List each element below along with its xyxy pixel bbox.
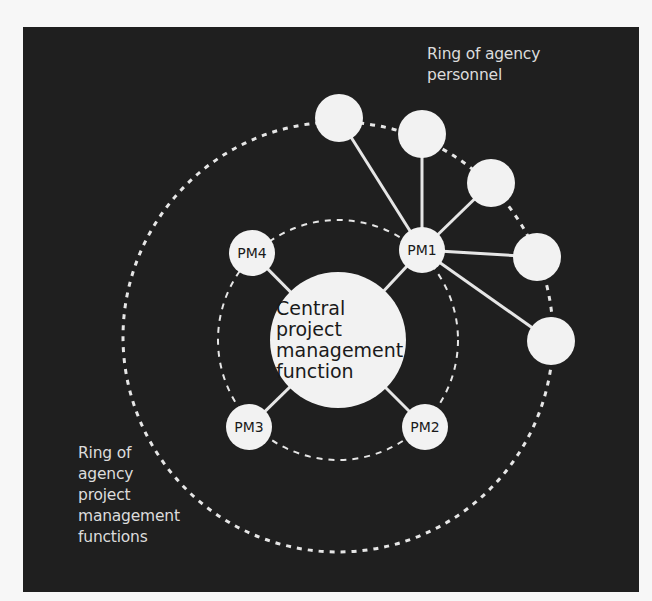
center-label-line: function [276,360,354,382]
pm-node-label: PM4 [237,245,267,261]
label-line: Ring of [78,443,180,464]
personnel-node-4 [513,233,561,281]
pm-node-pm1: PM1 [399,227,445,273]
pm-node-pm2: PM2 [402,404,448,450]
label-line: management [78,506,180,527]
pm-node-label: PM3 [234,419,263,435]
label-ring-of-agency-personnel: Ring of agency personnel [427,44,540,86]
center-label-line: management [276,339,403,361]
personnel-node-1 [315,94,363,142]
pm-node-pm3: PM3 [226,404,272,450]
pm-node-label: PM1 [407,242,436,258]
personnel-node-2 [398,110,446,158]
label-line: project [78,485,180,506]
label-line: personnel [427,65,540,86]
label-line: functions [78,527,180,548]
pm-node-pm4: PM4 [229,230,275,276]
central-pm-function-node: Centralprojectmanagementfunction [270,272,406,408]
label-line: Ring of agency [427,44,540,65]
center-label-line: Central [276,297,345,319]
label-line: agency [78,464,180,485]
personnel-node-5 [527,317,575,365]
center-label-line: project [276,318,342,340]
label-ring-of-agency-pm-functions: Ring of agency project management functi… [78,443,180,548]
pm-node-label: PM2 [410,419,439,435]
personnel-node-3 [467,159,515,207]
